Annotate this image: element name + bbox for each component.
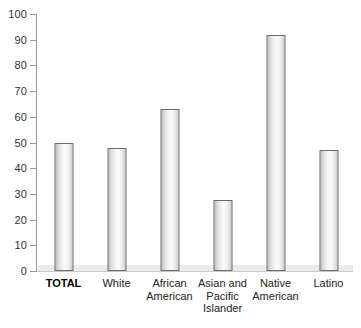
x-axis-label-line: Pacific (196, 290, 249, 303)
y-axis-tick-label: 30 (0, 189, 27, 200)
y-axis-tick (30, 194, 37, 195)
x-axis-label-line: TOTAL (37, 277, 90, 290)
baseline-rule (37, 271, 353, 272)
bar-slot (302, 14, 355, 271)
y-axis-tick-label: 20 (0, 215, 27, 226)
y-axis-tick-label: 40 (0, 163, 27, 174)
bar (213, 200, 232, 271)
bar (160, 109, 179, 271)
y-axis-tick-label: 90 (0, 35, 27, 46)
x-axis-category-label: AfricanAmerican (143, 277, 196, 302)
bar (54, 143, 73, 272)
x-axis-category-label: Latino (302, 277, 355, 290)
bar-slot (143, 14, 196, 271)
x-axis-category-label: TOTAL (37, 277, 90, 290)
x-axis-category-label: NativeAmerican (249, 277, 302, 302)
y-axis-tick (30, 65, 37, 66)
y-axis-tick-label: 60 (0, 112, 27, 123)
x-axis-label-line: Asian and (196, 277, 249, 290)
bar-slot (249, 14, 302, 271)
x-axis-label-line: White (90, 277, 143, 290)
x-axis-category-label: White (90, 277, 143, 290)
y-axis-tick (30, 143, 37, 144)
y-axis-tick (30, 91, 37, 92)
y-axis-tick (30, 168, 37, 169)
y-axis-tick (30, 117, 37, 118)
x-axis-label-line: American (249, 290, 302, 303)
y-axis-tick-label: 100 (0, 9, 27, 20)
bar-chart: 0102030405060708090100 TOTALWhiteAfrican… (0, 0, 361, 328)
y-axis-tick-label: 0 (0, 266, 27, 277)
bar (107, 148, 126, 271)
bar-series (37, 14, 355, 271)
y-axis-tick (30, 14, 37, 15)
y-axis-tick-label: 10 (0, 240, 27, 251)
x-axis-label-line: American (143, 290, 196, 303)
bar-slot (90, 14, 143, 271)
bar-slot (37, 14, 90, 271)
y-axis-tick (30, 40, 37, 41)
y-axis-tick (30, 271, 37, 272)
x-axis-label-line: African (143, 277, 196, 290)
bar (266, 35, 285, 271)
y-axis-tick-label: 80 (0, 60, 27, 71)
y-axis-tick (30, 220, 37, 221)
x-axis-label-line: Islander (196, 302, 249, 315)
bar-slot (196, 14, 249, 271)
y-axis-tick (30, 245, 37, 246)
bar (319, 150, 338, 271)
x-axis-label-line: Latino (302, 277, 355, 290)
x-axis-label-line: Native (249, 277, 302, 290)
y-axis-tick-label: 50 (0, 138, 27, 149)
x-axis-labels: TOTALWhiteAfricanAmericanAsian andPacifi… (37, 277, 355, 327)
x-axis-category-label: Asian andPacificIslander (196, 277, 249, 315)
y-axis-tick-label: 70 (0, 86, 27, 97)
